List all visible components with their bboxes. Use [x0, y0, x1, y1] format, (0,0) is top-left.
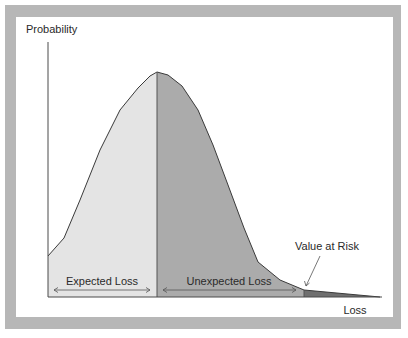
unexpected-loss-label: Unexpected Loss [187, 275, 272, 287]
x-axis-label: Loss [343, 304, 367, 316]
var-diagram: Probability Loss Expected Loss Unexpecte… [0, 0, 408, 338]
value-at-risk-label: Value at Risk [295, 240, 359, 252]
y-axis-label: Probability [26, 23, 78, 35]
expected-loss-label: Expected Loss [66, 275, 139, 287]
